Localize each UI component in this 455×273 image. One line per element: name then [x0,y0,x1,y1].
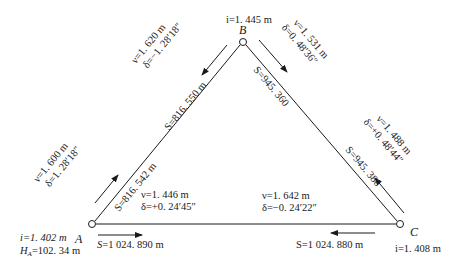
station-c-label: C [410,225,419,239]
ac-distance-near-c: S=1 024. 880 m [296,239,363,250]
station-a-instrument-height: i=1. 402 m [20,232,67,243]
station-c-instrument-height: i=1. 408 m [395,243,441,254]
ab-distance-near-b: S=816. 550 m [162,80,208,133]
ac-from-c-target-height: ν=1. 642 m [262,190,310,201]
station-b-instrument-height: i=1. 445 m [226,14,272,25]
ac-from-a-vertical-angle: δ=+0. 24′45″ [141,201,196,212]
station-a-marker [89,221,96,228]
ac-from-c-vertical-angle: δ=−0. 24′22″ [262,202,317,213]
triangulation-diagram: A B C i=1. 402 m HA=102. 34 m i=1. 445 m… [0,0,455,273]
station-c-marker [397,221,404,228]
ac-from-a-target-height: ν=1. 446 m [141,189,189,200]
station-a-label: A [74,232,83,246]
station-a-elevation: HA=102. 34 m [19,245,80,258]
ac-distance-near-a: S=1 024. 890 m [97,239,164,250]
arrow-ab-from-b [202,45,227,75]
station-b-label: B [239,23,247,37]
arrow-ab-from-a [95,175,118,203]
station-b-marker [240,39,247,46]
